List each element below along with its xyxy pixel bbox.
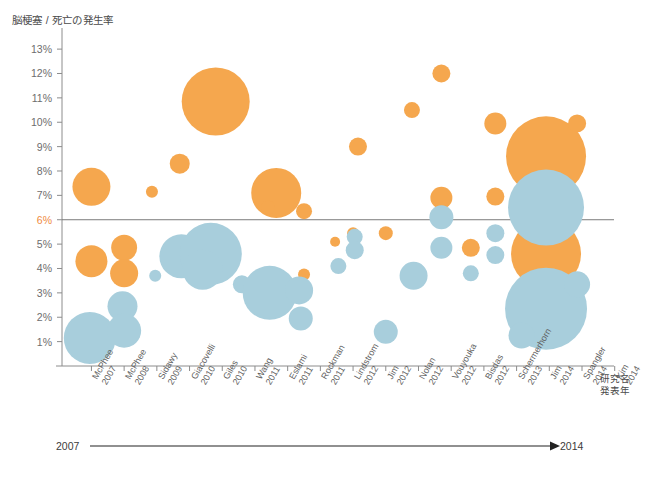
bubble-chart-figure: 脳梗塞 / 死亡の発生率 13%12%11%10%9%8%7%6%5%4%3%2… [0, 0, 646, 484]
x-axis-caption-line-1: 研究名 [600, 373, 630, 385]
timeline-start-year: 2007 [56, 440, 79, 452]
x-tick-label-jim-2012: Jim2012 [385, 359, 413, 387]
x-tick-label-rockman-2011: Rockman2011 [319, 343, 356, 386]
timeline-end-year: 2014 [560, 440, 583, 452]
x-tick-label-eslami-2011: Eslami2011 [287, 353, 319, 387]
x-tick-label-mcphee-2008: McPhee2008 [123, 347, 158, 386]
x-tick-label-wang-2011: Wang2011 [254, 356, 284, 387]
x-tick-label-giacovelli-2010: Giacovelli2010 [189, 342, 227, 386]
x-tick-label-vouyouka-2012: Vouyouka2012 [450, 342, 488, 387]
x-axis-caption-line-2: 発表年 [600, 385, 630, 397]
x-tick-label-nolan-2012: Nolan2012 [417, 356, 447, 387]
x-tick-label-mcphee-2007: McPhee2007 [90, 347, 125, 386]
x-tick-label-jim-2014: Jim2014 [548, 359, 576, 387]
x-axis-caption: 研究名 発表年 [600, 373, 630, 397]
x-tick-label-giles-2010: Giles2010 [221, 358, 249, 386]
x-tick-label-bisdas-2012: Bisdas2012 [483, 353, 515, 387]
x-tick-label-lindstrom-2012: Lindstrom2012 [352, 342, 390, 387]
x-tick-label-sidawy-2009: Sidawy2009 [156, 351, 189, 387]
x-axis-tick-labels: McPhee2007McPhee2008Sidawy2009Giacovelli… [0, 0, 646, 484]
timeline-row: 2007 2014 [56, 440, 616, 462]
